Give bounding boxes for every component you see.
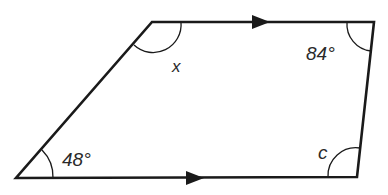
angle-label-c: c — [318, 142, 328, 163]
angle-label-x: x — [171, 57, 181, 76]
angle-arc-top-right — [347, 22, 371, 51]
top-parallel-arrow-icon — [252, 15, 270, 29]
angle-label-84: 84° — [306, 43, 335, 64]
angle-label-48: 48° — [62, 149, 91, 170]
trapezium-diagram: x 84° 48° c — [0, 0, 388, 195]
bottom-parallel-arrow-icon — [186, 171, 204, 185]
angle-arc-bottom-left — [42, 150, 53, 178]
angle-arc-top-left — [134, 22, 181, 53]
angle-arc-bottom-right — [328, 148, 360, 177]
